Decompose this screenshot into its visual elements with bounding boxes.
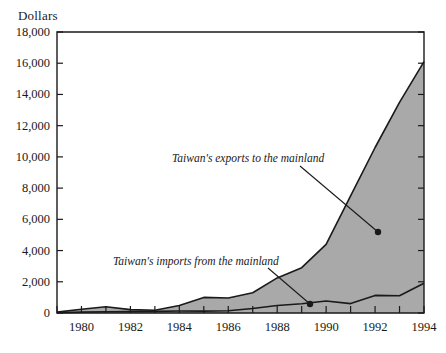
annotation-dot <box>307 301 313 307</box>
series-layer <box>57 62 424 313</box>
annotation-label: Taiwan's exports to the mainland <box>172 152 324 164</box>
exports-area <box>57 62 424 313</box>
annotation-dot <box>375 229 381 235</box>
chart-plot-area <box>0 0 446 353</box>
annotation-label: Taiwan's imports from the mainland <box>113 255 279 267</box>
chart-container: Dollars 02,0004,0006,0008,00010,00012,00… <box>0 0 446 353</box>
